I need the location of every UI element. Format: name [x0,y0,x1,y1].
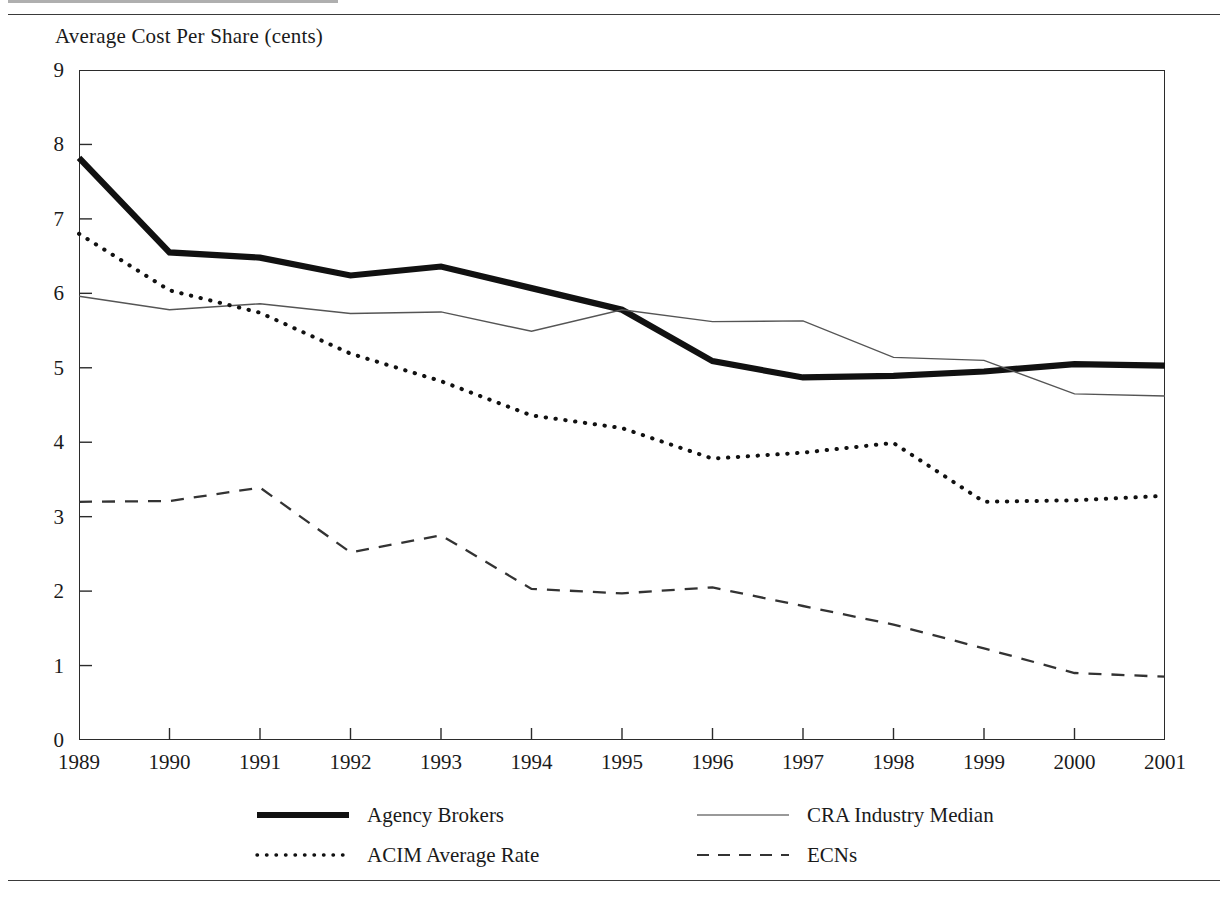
axis-ticks [79,144,1075,740]
legend-item-acim-average-rate[interactable]: ACIM Average Rate [255,842,539,868]
y-tick-label: 2 [8,581,64,602]
x-tick-label: 1997 [782,752,824,773]
top-rule-artifact [8,0,338,3]
x-tick-label: 1995 [601,752,643,773]
y-tick-label: 5 [8,357,64,378]
x-tick-label: 1999 [963,752,1005,773]
legend-label: ECNs [807,845,857,866]
figure-bottom-rule [8,880,1220,881]
x-tick-label: 1998 [873,752,915,773]
y-tick-label: 0 [8,730,64,751]
y-axis-title: Average Cost Per Share (cents) [55,24,323,49]
y-tick-label: 7 [8,208,64,229]
x-tick-label: 1996 [692,752,734,773]
y-tick-label: 1 [8,655,64,676]
x-tick-label: 1989 [58,752,100,773]
legend-label: Agency Brokers [367,805,504,826]
legend-label: ACIM Average Rate [367,845,539,866]
legend-item-ecns[interactable]: ECNs [695,842,857,868]
chart-plot-area [79,70,1165,740]
y-tick-label: 8 [8,134,64,155]
x-tick-label: 1991 [239,752,281,773]
legend-item-cra-industry-median[interactable]: CRA Industry Median [695,802,994,828]
data-series-group [79,158,1165,677]
x-tick-label: 1990 [149,752,191,773]
y-tick-label: 9 [8,60,64,81]
y-tick-label: 3 [8,506,64,527]
y-tick-label: 6 [8,283,64,304]
dashed-line-sample [695,844,791,866]
x-tick-label: 1993 [420,752,462,773]
legend-item-agency-brokers[interactable]: Agency Brokers [255,802,504,828]
series-line [79,488,1165,677]
figure-container: Average Cost Per Share (cents) 012345678… [0,0,1228,915]
x-tick-label: 2001 [1144,752,1186,773]
series-line [79,158,1165,378]
thick-solid-line-sample [255,804,351,826]
y-tick-label: 4 [8,432,64,453]
x-tick-label: 1992 [330,752,372,773]
thin-solid-line-sample [695,804,791,826]
legend-label: CRA Industry Median [807,805,994,826]
x-tick-label: 1994 [511,752,553,773]
figure-top-rule [8,14,1220,15]
x-tick-label: 2000 [1054,752,1096,773]
chart-legend: Agency Brokers ACIM Average Rate CRA Ind… [255,800,1015,870]
dotted-line-sample [255,844,351,866]
